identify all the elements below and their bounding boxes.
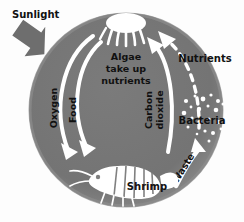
diagram-canvas: Sunlight Algae take up nutrients Oxygen … xyxy=(0,0,244,222)
algae-label-line3: nutrients xyxy=(101,75,151,86)
oxygen-label: Oxygen xyxy=(48,88,59,129)
carbon-dioxide-label-line1: Carbon xyxy=(143,91,154,129)
sunlight-label: Sunlight xyxy=(12,9,60,20)
nutrients-label: Nutrients xyxy=(178,53,231,64)
algae-label-line1: Algae xyxy=(111,51,141,62)
carbon-dioxide-label-line2: dioxide xyxy=(154,90,165,129)
algae-label-line2: take up xyxy=(106,63,147,74)
ecosystem-cycle-diagram: Sunlight Algae take up nutrients Oxygen … xyxy=(0,0,244,222)
food-label: Food xyxy=(67,97,78,123)
shrimp-label: Shrimp xyxy=(127,181,167,192)
bacteria-label: Bacteria xyxy=(179,115,226,126)
